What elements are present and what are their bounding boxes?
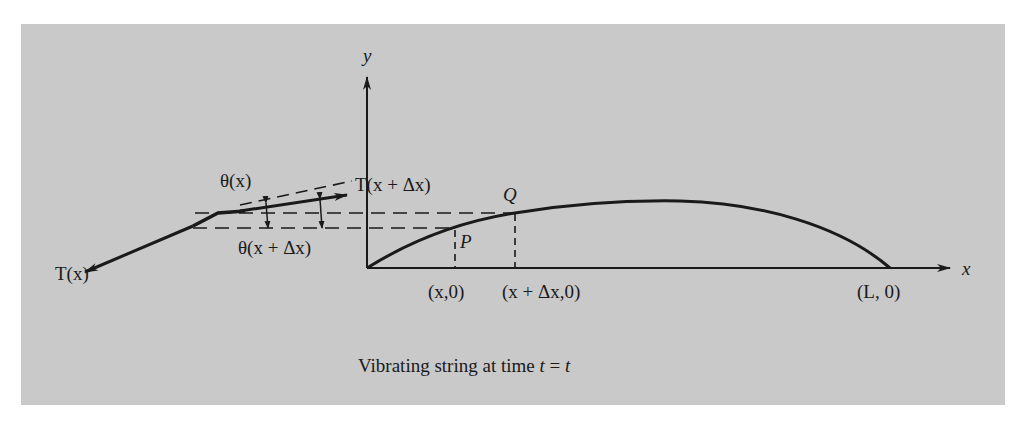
figure-caption: Vibrating string at time t = t <box>358 355 571 376</box>
x-axis-label: x <box>961 258 971 279</box>
angle-marker-theta-x-dx <box>320 199 322 228</box>
point-p-label: P <box>459 231 472 252</box>
caption-eq: = <box>545 355 565 376</box>
tick-label-x: (x,0) <box>428 281 464 303</box>
tick-label-x-dx: (x + Δx,0) <box>502 281 580 303</box>
string-curve <box>367 201 890 268</box>
caption-var2: t <box>565 355 571 376</box>
y-axis-label: y <box>361 45 372 66</box>
theta-x-label: θ(x) <box>220 170 251 192</box>
theta-x-dx-label: θ(x + Δx) <box>238 237 311 259</box>
tension-right-arrow <box>240 195 347 211</box>
point-q-label: Q <box>503 184 517 205</box>
caption-text: Vibrating string at time <box>358 355 539 376</box>
tension-left-arrow <box>85 226 193 272</box>
tension-right-label: T(x + Δx) <box>355 174 431 196</box>
vibrating-string-diagram: y x T(x) T(x + Δx) θ(x) θ(x + Δx) P Q (x… <box>0 0 1035 438</box>
tick-label-L: (L, 0) <box>857 281 900 303</box>
tension-left-label: T(x) <box>55 263 89 285</box>
